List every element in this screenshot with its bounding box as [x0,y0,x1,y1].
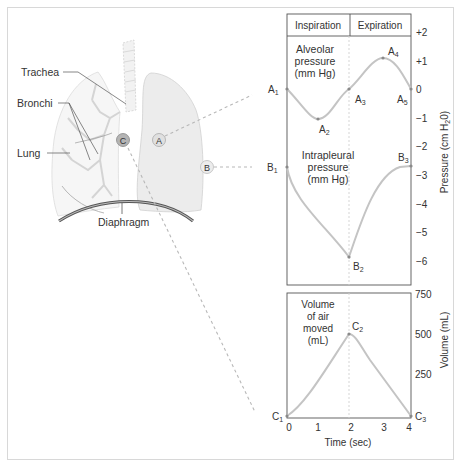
right-lung-shape [137,73,203,212]
phase-inspiration: Inspiration [295,20,341,31]
svg-text:−3: −3 [416,170,428,181]
marker-a: A [153,134,166,147]
svg-text:250: 250 [415,369,432,380]
svg-text:B: B [204,163,210,173]
svg-text:0: 0 [286,422,292,433]
svg-text:−6: −6 [416,256,428,267]
label-b1: B1 [267,162,278,174]
svg-text:+2: +2 [416,27,428,38]
volume-axis-label: Volume (mL) [439,312,450,369]
svg-text:750: 750 [415,289,432,300]
trachea-label: Trachea [21,66,59,78]
pressure-axis-label: Pressure (cm H20) [439,111,451,193]
svg-text:500: 500 [415,329,432,340]
label-a2: A2 [319,124,330,136]
volume-title-3: moved [303,323,333,334]
svg-text:1: 1 [315,422,321,433]
respiration-diagram: Trachea Bronchi Lung Diaphragm C A B Ins… [0,0,459,469]
phase-expiration: Expiration [358,20,402,31]
time-ticks: 0 1 2 3 4 [286,422,412,433]
volume-title-4: (mL) [308,335,329,346]
svg-text:+1: +1 [416,56,428,67]
svg-text:0: 0 [416,84,422,95]
time-axis-label: Time (sec) [325,437,372,448]
pressure-panel: Inspiration Expiration Alveolar pressure… [267,14,451,285]
svg-text:−4: −4 [416,199,428,210]
label-c2: C2 [352,321,363,333]
label-c3: C3 [415,411,426,423]
intrapleural-curve [287,166,411,257]
alveolar-title-3: (mm Hg) [295,67,336,79]
label-a3: A3 [355,94,366,106]
intrapleural-title-2: pressure [308,161,349,173]
svg-text:A: A [156,136,162,146]
svg-text:−5: −5 [416,227,428,238]
label-b3: B3 [398,152,409,164]
alveolar-title-2: pressure [295,55,336,67]
svg-text:−2: −2 [416,141,428,152]
trachea-shape [123,40,136,112]
label-c1: C1 [272,411,283,423]
label-b2: B2 [353,261,364,273]
volume-ticks: 750 500 250 [415,289,432,380]
lung-illustration: Trachea Bronchi Lung Diaphragm C A B [17,40,255,412]
svg-text:C: C [120,136,127,146]
label-a4: A4 [388,46,399,58]
pressure-ticks: +2 +1 0 −1 −2 −3 −4 −5 −6 [416,27,428,267]
marker-b: B [201,161,214,174]
volume-title-1: Volume [301,299,335,310]
intrapleural-title-3: (mm Hg) [308,173,349,185]
diaphragm-label: Diaphragm [98,216,150,228]
label-a5: A5 [397,94,408,106]
label-a1: A1 [268,84,279,96]
bronchi-label: Bronchi [17,97,53,109]
svg-text:4: 4 [406,422,412,433]
svg-text:3: 3 [381,422,387,433]
volume-title-2: of air [307,311,330,322]
alveolar-title-1: Alveolar [296,43,334,55]
volume-panel: Volume of air moved (mL) C1 C2 C3 750 50… [272,289,450,448]
svg-text:−1: −1 [416,113,428,124]
lung-label: Lung [17,147,41,159]
intrapleural-title-1: Intrapleural [302,149,355,161]
svg-text:2: 2 [348,422,354,433]
marker-c: C [117,134,130,147]
